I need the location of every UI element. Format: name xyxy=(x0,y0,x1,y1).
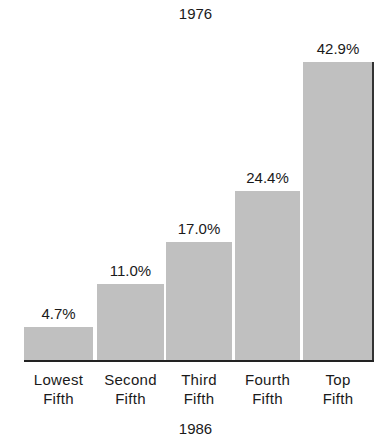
bar-3 xyxy=(166,242,232,360)
bar-chart: 4.7%LowestFifth11.0%SecondFifth17.0%Thir… xyxy=(0,0,391,445)
category-label: ThirdFifth xyxy=(162,370,236,408)
category-label: FourthFifth xyxy=(231,370,304,408)
value-label: 11.0% xyxy=(97,262,164,279)
chart-title-bottom: 1986 xyxy=(0,420,391,437)
top-bar-right-edge xyxy=(372,62,374,360)
value-label: 24.4% xyxy=(235,169,300,186)
value-label: 4.7% xyxy=(24,305,93,322)
value-label: 42.9% xyxy=(303,40,373,57)
category-label: LowestFifth xyxy=(20,370,97,408)
category-label: TopFifth xyxy=(299,370,377,408)
bar-1 xyxy=(24,327,93,360)
bar-2 xyxy=(97,284,164,360)
baseline-axis xyxy=(24,360,374,362)
bar-5 xyxy=(303,62,373,360)
value-label: 17.0% xyxy=(166,220,232,237)
bar-4 xyxy=(235,191,300,360)
category-label: SecondFifth xyxy=(93,370,168,408)
